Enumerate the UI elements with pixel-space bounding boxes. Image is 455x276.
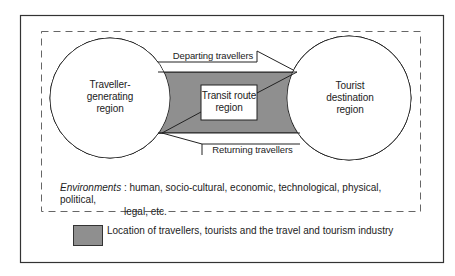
- environments-line2: legal, etc.: [60, 206, 420, 218]
- environments-label: Environments: [60, 182, 121, 193]
- generating-region-label: Traveller- generating region: [70, 79, 150, 115]
- departing-travellers-label: Departing travellers: [168, 50, 258, 62]
- legend-text: Location of travellers, tourists and the…: [107, 225, 393, 237]
- destination-region-label: Tourist destination region: [310, 80, 390, 116]
- transit-region-label: Transit route region: [201, 90, 257, 114]
- legend-swatch: [74, 226, 103, 246]
- returning-travellers-label: Returning travellers: [205, 144, 300, 156]
- environments-note: Environments : human, socio-cultural, ec…: [60, 182, 420, 218]
